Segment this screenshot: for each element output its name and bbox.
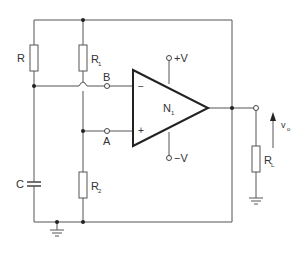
capacitor-c: C <box>16 176 41 192</box>
svg-text:+: + <box>138 125 144 136</box>
terminal-plus-v: +V <box>167 52 189 64</box>
svg-text:o: o <box>287 126 291 132</box>
svg-text:A: A <box>103 135 111 147</box>
svg-text:−V: −V <box>174 152 188 164</box>
svg-text:C: C <box>16 178 24 190</box>
ground-icon <box>50 230 64 236</box>
svg-text:1: 1 <box>98 61 102 67</box>
terminal-b: B <box>103 71 110 89</box>
resistor-r1: R 1 <box>79 45 102 71</box>
svg-text:−: − <box>138 81 144 92</box>
svg-text:2: 2 <box>98 188 102 194</box>
svg-text:+V: +V <box>174 52 188 64</box>
opamp-n1: − + N 1 <box>133 70 208 146</box>
output-voltage-arrow: v o <box>270 112 291 148</box>
terminal-minus-v: −V <box>167 152 189 164</box>
resistor-r2: R 2 <box>79 172 102 198</box>
terminal-a: A <box>103 129 111 148</box>
svg-text:L: L <box>271 162 275 168</box>
svg-text:v: v <box>281 120 286 130</box>
svg-text:N: N <box>163 102 171 114</box>
circuit-diagram: R R 1 R 2 C R L − + N 1 B A <box>0 0 302 255</box>
svg-text:R: R <box>17 52 25 64</box>
svg-text:B: B <box>103 71 110 83</box>
resistor-r: R <box>17 45 38 71</box>
ground-icon <box>249 198 263 204</box>
terminal-output <box>254 106 259 111</box>
resistor-rl: R L <box>252 146 275 172</box>
